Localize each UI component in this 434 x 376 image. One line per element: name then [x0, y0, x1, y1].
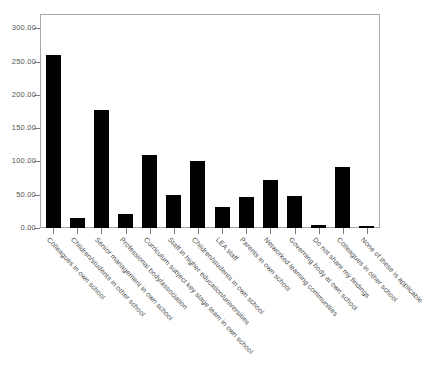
y-axis-tick-label: 250.00	[0, 57, 36, 66]
x-axis-tick	[198, 228, 199, 234]
bar	[46, 55, 61, 228]
x-axis-tick-label: LEA staff	[215, 236, 240, 262]
y-axis-tick-label: 0.00	[0, 223, 36, 232]
bar-slot	[331, 15, 355, 228]
bar-chart: 0.0050.00100.00150.00200.00250.00300.00 …	[0, 0, 434, 376]
x-axis-tick	[77, 228, 78, 234]
bar	[190, 161, 205, 228]
x-axis-tick	[319, 228, 320, 234]
bar-slot	[258, 15, 282, 228]
x-axis-tick	[343, 228, 344, 234]
x-axis-tick	[222, 228, 223, 234]
x-axis-tick	[53, 228, 54, 234]
bar-series	[41, 15, 379, 228]
y-axis-tick-label: 100.00	[0, 156, 36, 165]
bar	[263, 180, 278, 228]
bar-slot	[89, 15, 113, 228]
y-axis-tick-label: 150.00	[0, 123, 36, 132]
bar-slot	[113, 15, 137, 228]
x-axis-tick	[174, 228, 175, 234]
bar	[70, 218, 85, 228]
bar-slot	[234, 15, 258, 228]
y-axis-tick-label: 50.00	[0, 190, 36, 199]
bar-slot	[210, 15, 234, 228]
bar-slot	[186, 15, 210, 228]
y-axis-tick-label: 300.00	[0, 23, 36, 32]
bar-slot	[41, 15, 65, 228]
bar	[311, 225, 326, 228]
x-axis-tick	[270, 228, 271, 234]
bar	[335, 167, 350, 228]
bar	[94, 110, 109, 228]
bar-slot	[65, 15, 89, 228]
bar	[287, 196, 302, 228]
bar-slot	[282, 15, 306, 228]
x-axis-tick	[295, 228, 296, 234]
x-axis-tick	[367, 228, 368, 234]
x-axis-tick	[126, 228, 127, 234]
bar-slot	[162, 15, 186, 228]
x-axis-tick	[150, 228, 151, 234]
bar	[118, 214, 133, 228]
bar-slot	[307, 15, 331, 228]
bar-slot	[355, 15, 379, 228]
bar	[215, 207, 230, 228]
y-axis-tick-label: 200.00	[0, 90, 36, 99]
bar	[239, 197, 254, 228]
bar-slot	[138, 15, 162, 228]
bar	[142, 155, 157, 228]
bar	[166, 195, 181, 228]
x-axis-tick	[246, 228, 247, 234]
bar	[359, 226, 374, 228]
plot-area	[41, 15, 379, 228]
x-axis-tick	[101, 228, 102, 234]
